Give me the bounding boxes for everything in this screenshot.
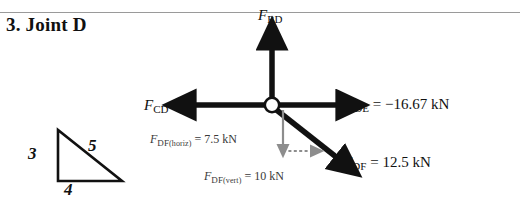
free-body-diagram-figure: 3. Joint D 3 5 4: [0, 0, 520, 210]
force-label-de: FDE = −16.67 kN: [345, 97, 449, 114]
force-subscript-cd: CD: [153, 103, 168, 115]
component-qualifier-df-horizontal: (horiz): [169, 139, 191, 148]
force-subscript-bd: BD: [267, 13, 282, 25]
force-symbol-de: F: [345, 96, 354, 112]
component-subscript-df-vertical: DF(vert): [211, 175, 241, 185]
force-symbol-df: F: [343, 154, 352, 170]
component-label-df-vertical: FDF(vert) = 10 kN: [204, 170, 284, 185]
force-subscript-de: DE: [354, 102, 369, 114]
component-value-df-horizontal: = 7.5 kN: [195, 132, 237, 146]
force-symbol-bd: F: [258, 7, 267, 23]
component-value-df-vertical: = 10 kN: [244, 169, 283, 183]
component-subscript-df-horizontal: DF(horiz): [157, 138, 191, 148]
force-value-df: = 12.5 kN: [370, 154, 431, 170]
joint-node-D: [265, 98, 279, 112]
force-label-bd: FBD: [258, 8, 283, 25]
component-qualifier-df-vertical: (vert): [223, 176, 241, 185]
force-subscript-df: DF: [352, 160, 366, 172]
force-label-df: FDF = 12.5 kN: [343, 155, 431, 172]
force-label-cd: FCD: [144, 98, 169, 115]
component-label-df-horizontal: FDF(horiz) = 7.5 kN: [150, 133, 237, 148]
force-symbol-cd: F: [144, 97, 153, 113]
force-value-de: = −16.67 kN: [373, 96, 450, 112]
